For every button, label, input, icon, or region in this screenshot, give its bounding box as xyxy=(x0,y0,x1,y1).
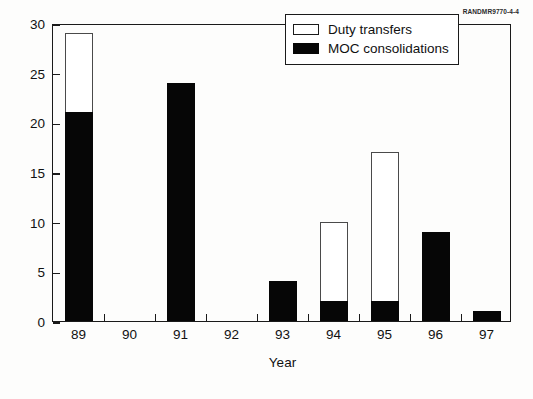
y-tick-mark xyxy=(53,273,60,274)
x-tick-mark xyxy=(257,314,258,321)
bar-group[interactable] xyxy=(65,23,93,321)
y-tick-mark xyxy=(53,24,60,25)
bar-segment-duty-transfers[interactable] xyxy=(320,222,348,301)
x-tick-label: 96 xyxy=(412,327,460,342)
bar-group[interactable] xyxy=(371,23,399,321)
x-tick-mark xyxy=(410,314,411,321)
x-tick-mark xyxy=(461,314,462,321)
legend-item[interactable]: Duty transfers xyxy=(293,20,449,39)
x-tick-label: 97 xyxy=(463,327,511,342)
x-tick-mark xyxy=(104,314,105,321)
bar-segment-moc-consolidations[interactable] xyxy=(473,311,501,321)
x-tick-label: 94 xyxy=(310,327,358,342)
legend-swatch-duty-transfers xyxy=(293,24,319,35)
x-tick-label: 92 xyxy=(208,327,256,342)
bar-group[interactable] xyxy=(320,23,348,321)
bar-segment-moc-consolidations[interactable] xyxy=(422,232,450,321)
y-tick-label: 30 xyxy=(5,17,45,32)
y-tick-label: 25 xyxy=(5,67,45,82)
bar-segment-moc-consolidations[interactable] xyxy=(65,112,93,321)
bar-segment-moc-consolidations[interactable] xyxy=(371,301,399,321)
bar-group[interactable] xyxy=(269,23,297,321)
x-tick-mark xyxy=(206,314,207,321)
y-tick-mark xyxy=(53,74,60,75)
chart-legend: Duty transfersMOC consolidations xyxy=(285,14,459,65)
bar-segment-duty-transfers[interactable] xyxy=(371,152,399,301)
bar-segment-moc-consolidations[interactable] xyxy=(320,301,348,321)
y-tick-label: 15 xyxy=(5,166,45,181)
x-tick-mark xyxy=(308,314,309,321)
x-tick-label: 91 xyxy=(157,327,205,342)
y-tick-mark xyxy=(53,173,60,174)
y-tick-mark xyxy=(53,322,60,323)
plot-area: Number of MOC changes Year 051015202530 … xyxy=(52,24,511,322)
y-tick-mark xyxy=(53,124,60,125)
legend-label: Duty transfers xyxy=(328,22,412,37)
x-tick-mark xyxy=(155,314,156,321)
x-tick-mark xyxy=(359,314,360,321)
y-tick-label: 20 xyxy=(5,116,45,131)
bar-segment-moc-consolidations[interactable] xyxy=(269,281,297,321)
x-axis-title: Year xyxy=(53,355,512,370)
bar-group[interactable] xyxy=(422,23,450,321)
x-tick-label: 93 xyxy=(259,327,307,342)
y-tick-label: 5 xyxy=(5,265,45,280)
bar-segment-duty-transfers[interactable] xyxy=(65,33,93,112)
bar-segment-moc-consolidations[interactable] xyxy=(167,83,195,321)
bar-group[interactable] xyxy=(473,23,501,321)
x-tick-label: 89 xyxy=(55,327,103,342)
y-tick-label: 0 xyxy=(5,315,45,330)
legend-item[interactable]: MOC consolidations xyxy=(293,39,449,58)
legend-swatch-moc-consolidations xyxy=(293,43,319,54)
legend-label: MOC consolidations xyxy=(328,41,449,56)
bar-group[interactable] xyxy=(167,23,195,321)
x-tick-label: 95 xyxy=(361,327,409,342)
source-id-label: RANDMR9770-4-4 xyxy=(463,8,519,15)
chart-figure: RANDMR9770-4-4 Number of MOC changes Yea… xyxy=(0,0,533,399)
y-tick-label: 10 xyxy=(5,216,45,231)
x-tick-label: 90 xyxy=(106,327,154,342)
y-tick-mark xyxy=(53,223,60,224)
